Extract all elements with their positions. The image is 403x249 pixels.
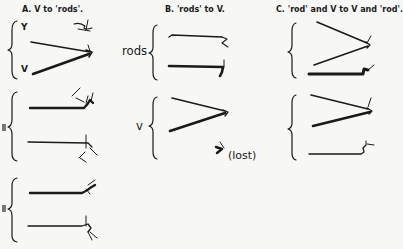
drawing-b1-top — [169, 35, 228, 47]
drawing-b2-v — [170, 98, 228, 131]
drawing-a2-bottom — [28, 135, 97, 162]
drawing-a3-top — [30, 180, 95, 194]
drawing-c1-rod — [309, 65, 374, 74]
brace-b2 — [149, 97, 157, 159]
brace-a3 — [8, 178, 17, 242]
brace-a2 — [8, 92, 17, 161]
drawing-a3-bottom — [28, 216, 97, 240]
drawing-c1-v — [314, 22, 371, 65]
brace-c2 — [288, 95, 296, 160]
drawing-a1-top — [74, 20, 92, 31]
drawing-b1-bottom — [169, 60, 224, 76]
drawing-c2-v — [311, 95, 372, 126]
brace-b1 — [149, 25, 157, 80]
brace-c1 — [288, 23, 296, 78]
drawing-a1-v — [31, 42, 92, 74]
brace-a1 — [8, 21, 17, 79]
drawing-c2-rod — [309, 141, 374, 154]
drawing-b2-lost-fragment — [216, 142, 224, 153]
drawing-a2-top — [30, 88, 93, 108]
